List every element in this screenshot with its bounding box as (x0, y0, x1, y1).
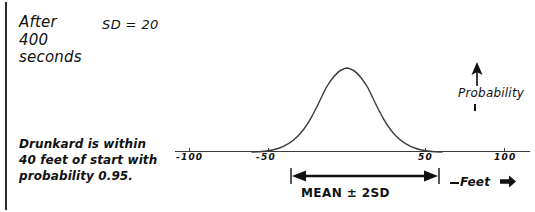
mean-span-arrow (290, 168, 440, 184)
x-tick-label-100: 100 (494, 152, 516, 162)
x-tick-label-neg50: -50 (256, 152, 276, 162)
feet-label-dash (450, 182, 459, 184)
y-axis-label: Probability (458, 86, 524, 100)
up-arrow-icon (471, 62, 483, 86)
right-arrow-icon (500, 175, 516, 188)
x-axis-line (175, 151, 530, 152)
x-tick-label-neg100: -100 (176, 152, 203, 162)
x-axis-label: Feet (460, 175, 490, 189)
slide-canvas: After 400 seconds SD = 20 Drunkard is wi… (0, 0, 535, 212)
bell-curve (0, 0, 535, 212)
mean-span-label: MEAN ± 2SD (301, 186, 390, 200)
x-tick-label-50: 50 (418, 152, 433, 162)
normal-distribution-chart: -100 -50 50 100 Probability Feet MEAN ± … (0, 0, 535, 212)
probability-axis-tick (474, 104, 476, 111)
